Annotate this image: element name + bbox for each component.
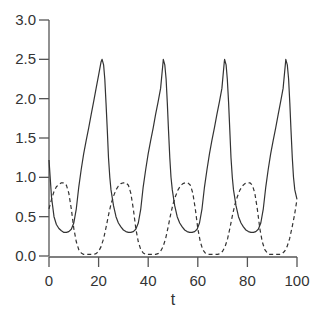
y-tick-label: 1.5 [15,129,36,146]
y-tick-label: 2.5 [15,50,36,67]
y-tick-label: 0.0 [15,247,36,264]
y-tick-label: 2.0 [15,90,36,107]
y-tick-label: 3.0 [15,11,36,28]
x-tick-label: 100 [284,272,309,289]
x-tick-label: 40 [140,272,157,289]
line-chart: 0.00.51.01.52.02.53.0 020406080100 t [0,0,320,316]
series-solid [49,59,297,232]
x-axis-label: t [171,291,176,308]
x-tick-label: 80 [239,272,256,289]
y-tick-label: 0.5 [15,208,36,225]
x-tick-label: 0 [45,272,53,289]
x-tick-label: 60 [189,272,206,289]
y-tick-label: 1.0 [15,168,36,185]
plot-series [49,59,297,254]
x-axis: 020406080100 [45,257,310,289]
y-axis: 0.00.51.01.52.02.53.0 [15,11,49,264]
x-tick-label: 20 [90,272,107,289]
